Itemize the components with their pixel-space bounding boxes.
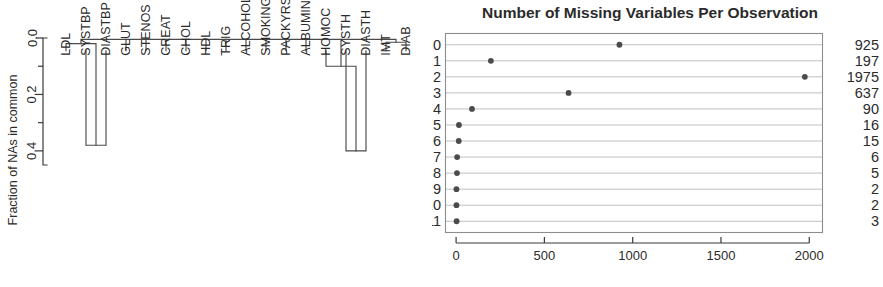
- dendrogram-leaf-label: LDL: [59, 33, 73, 56]
- dotchart-row-labels: 01234567891011: [432, 37, 441, 230]
- dendrogram-leaf-label: HOMOC: [319, 8, 333, 56]
- dotchart-x-tick-label: 1000: [618, 248, 647, 263]
- chart-title: Number of Missing Variables Per Observat…: [482, 4, 818, 21]
- dotchart-gridlines: [446, 45, 823, 222]
- dendrogram-leaf-label: SYSTBP: [79, 6, 93, 55]
- dotchart-svg: Number of Missing Variables Per Observat…: [432, 0, 883, 287]
- dotchart-point: [454, 154, 460, 160]
- dendrogram-leaf-label: IMT: [379, 34, 393, 56]
- dotchart-value-label: 3: [871, 213, 879, 229]
- dotchart-row-label: 4: [433, 101, 441, 117]
- dendrogram-panel: Fraction of NAs in common 0.00.20.4 LDLS…: [0, 0, 432, 287]
- dendrogram-tick-label: 0.0: [25, 29, 40, 47]
- dendrogram-leaf-label: DIAB: [399, 27, 413, 56]
- dotchart-value-label: 16: [863, 117, 879, 133]
- dendrogram-svg: Fraction of NAs in common 0.00.20.4 LDLS…: [0, 0, 432, 287]
- dendrogram-leaf-label: CREAT: [159, 14, 173, 56]
- dotchart-point: [454, 218, 460, 224]
- dotchart-row-label: 5: [433, 117, 441, 133]
- dendrogram-leaf-label: ALBUMIN: [299, 0, 313, 56]
- dendrogram-axis-line: [43, 38, 48, 165]
- dendrogram-leaf-label: HDL: [199, 31, 213, 56]
- dotchart-row-label: 2: [433, 69, 441, 85]
- dotchart-value-label: 925: [855, 37, 879, 53]
- dendrogram-leaf-label: DIASTH: [359, 10, 373, 56]
- dotchart-x-axis: 0500100015002000: [452, 237, 823, 263]
- dendrogram-tick-label: 0.4: [25, 142, 40, 160]
- dotchart-row-label: 3: [433, 85, 441, 101]
- dotchart-point: [469, 106, 475, 112]
- dotchart-point: [566, 90, 572, 96]
- dotchart-value-label: 1975: [847, 69, 879, 85]
- dendrogram-leaf-label: TRIG: [219, 26, 233, 56]
- dotchart-value-label: 197: [855, 53, 879, 69]
- dotchart-value-label: 2: [871, 197, 879, 213]
- dendrogram-leaf-label: GLUT: [119, 22, 133, 56]
- dotchart-point: [454, 202, 460, 208]
- dotchart-row-label: 0: [433, 37, 441, 53]
- dotchart-value-label: 90: [863, 101, 879, 117]
- dotchart-value-label: 637: [855, 85, 879, 101]
- dotchart-row-label: 8: [433, 165, 441, 181]
- dotchart-point: [454, 186, 460, 192]
- dotchart-row-label: 10: [432, 197, 441, 213]
- dendrogram-tick-label: 0.2: [25, 85, 40, 103]
- dendrogram-leaf-label: ALCOHOL: [239, 0, 253, 56]
- dotchart-row-label: 11: [432, 213, 441, 229]
- dotchart-point: [456, 122, 462, 128]
- dotchart-x-tick-label: 500: [534, 248, 556, 263]
- dendrogram-merge-ldl-bp: [66, 44, 96, 146]
- dotchart-x-tick-label: 1500: [707, 248, 736, 263]
- dotchart-value-label: 2: [871, 181, 879, 197]
- dendrogram-y-axis-title: Fraction of NAs in common: [6, 75, 20, 226]
- dendrogram-leaf-label: SMOKING: [259, 0, 273, 56]
- dendrogram-links: [66, 39, 406, 150]
- dendrogram-leaf-label: STENOS: [139, 4, 153, 55]
- dendrogram-leaf-labels: LDLSYSTBPDIASTBPGLUTSTENOSCREATCHOLHDLTR…: [59, 0, 413, 56]
- dotchart-value-label: 5: [871, 165, 879, 181]
- dendrogram-leaf-label: SYSTH: [339, 14, 353, 56]
- dendrogram-leaf-label: PACKYRS: [279, 0, 293, 56]
- dotchart-point: [456, 138, 462, 144]
- dotchart-row-label: 7: [433, 149, 441, 165]
- dendrogram-leaf-label: DIASTBP: [99, 2, 113, 56]
- dotchart-point: [454, 170, 460, 176]
- dotchart-point: [802, 74, 808, 80]
- dotchart-x-tick-label: 0: [452, 248, 459, 263]
- dendrogram-leaf-label: CHOL: [179, 21, 193, 56]
- dotchart-value-label: 15: [863, 133, 879, 149]
- dotchart-row-label: 6: [433, 133, 441, 149]
- dotchart-row-label: 1: [433, 53, 441, 69]
- dotchart-x-tick-label: 2000: [795, 248, 824, 263]
- dotchart-value-labels: 925197197563790161565223: [847, 37, 879, 230]
- dotchart-point: [617, 42, 623, 48]
- dotchart-plot-frame: [446, 34, 823, 233]
- dotchart-point: [488, 58, 494, 64]
- figure-root: Fraction of NAs in common 0.00.20.4 LDLS…: [0, 0, 883, 287]
- dotchart-panel: Number of Missing Variables Per Observat…: [432, 0, 883, 287]
- dendrogram-y-axis: 0.00.20.4: [25, 29, 48, 165]
- dotchart-data-points: [454, 42, 808, 224]
- dotchart-row-label: 9: [433, 181, 441, 197]
- dotchart-value-label: 6: [871, 149, 879, 165]
